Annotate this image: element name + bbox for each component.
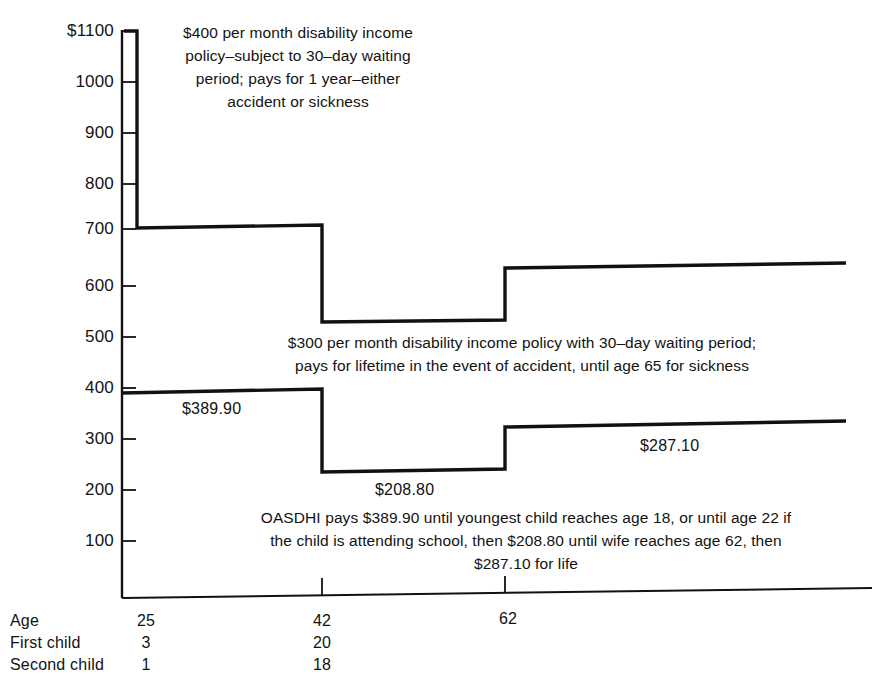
y-tick-label-900: 900 xyxy=(46,123,114,143)
annotation-oasdhi-line-3: $287.10 for life xyxy=(196,553,856,576)
axis-value-age-62: 62 xyxy=(499,610,517,628)
annotation-300-policy-line-2: pays for lifetime in the event of accide… xyxy=(196,355,848,378)
annotation-400-policy-line-1: $400 per month disability income xyxy=(148,22,448,45)
axis-value-second-child-25: 1 xyxy=(141,656,150,674)
annotation-400-policy: $400 per month disability income policy–… xyxy=(148,22,448,114)
annotation-oasdhi-line-2: the child is attending school, then $208… xyxy=(196,530,856,553)
data-label-208-80: $208.80 xyxy=(375,481,434,499)
x-axis-line xyxy=(122,588,872,598)
y-tick-label-1000: 1000 xyxy=(46,72,114,92)
y-tick-label-300: 300 xyxy=(46,429,114,449)
axis-value-first-child-25: 3 xyxy=(141,634,150,652)
axis-row-label-age: Age xyxy=(10,612,39,630)
y-tick-label-400: 400 xyxy=(46,378,114,398)
chart-container: $1100 1000 900 800 700 600 500 400 300 2… xyxy=(0,0,880,678)
axis-row-label-second-child: Second child xyxy=(10,656,104,674)
annotation-400-policy-line-2: policy–subject to 30–day waiting xyxy=(148,45,448,68)
annotation-400-policy-line-4: accident or sickness xyxy=(148,91,448,114)
annotation-oasdhi: OASDHI pays $389.90 until youngest child… xyxy=(196,507,856,576)
axis-value-first-child-42: 20 xyxy=(313,634,331,652)
annotation-300-policy: $300 per month disability income policy … xyxy=(196,332,848,378)
annotation-400-policy-line-3: period; pays for 1 year–either xyxy=(148,68,448,91)
data-label-389-90: $389.90 xyxy=(182,400,241,418)
data-label-287-10: $287.10 xyxy=(640,437,699,455)
axis-value-age-25: 25 xyxy=(137,612,155,630)
y-tick-label-500: 500 xyxy=(46,327,114,347)
axis-value-age-42: 42 xyxy=(313,612,331,630)
y-tick-label-800: 800 xyxy=(46,174,114,194)
annotation-300-policy-line-1: $300 per month disability income policy … xyxy=(196,332,848,355)
y-tick-label-600: 600 xyxy=(46,276,114,296)
y-tick-label-1100: $1100 xyxy=(46,21,114,41)
axis-value-second-child-42: 18 xyxy=(313,656,331,674)
axis-row-label-first-child: First child xyxy=(10,634,81,652)
annotation-oasdhi-line-1: OASDHI pays $389.90 until youngest child… xyxy=(196,507,856,530)
y-tick-label-200: 200 xyxy=(46,480,114,500)
x-axis-ticks xyxy=(322,576,505,595)
y-axis-ticks xyxy=(122,31,136,541)
y-tick-label-100: 100 xyxy=(46,531,114,551)
y-tick-label-700: 700 xyxy=(46,219,114,239)
